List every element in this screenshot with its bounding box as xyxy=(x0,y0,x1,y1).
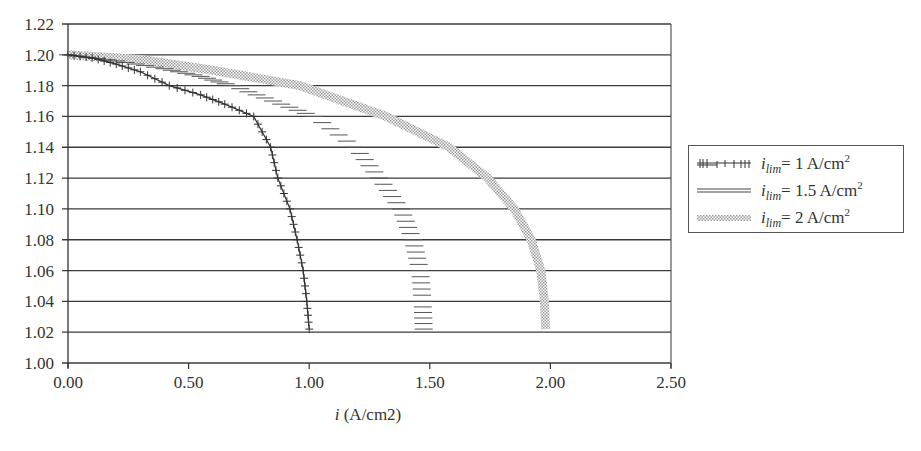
series-ilim-1-line xyxy=(64,51,313,333)
y-tick-label: 1.18 xyxy=(24,77,54,96)
legend-label: = 1.5 A/cm xyxy=(781,181,857,200)
y-tick-label: 1.20 xyxy=(24,46,54,65)
axes xyxy=(68,24,671,369)
legend-label-sub: lim xyxy=(766,216,781,230)
legend-label: = 2 A/cm xyxy=(781,208,844,227)
y-tick-label: 1.06 xyxy=(24,262,54,281)
legend-label: = 1 A/cm xyxy=(781,154,844,173)
data-series xyxy=(59,51,546,333)
legend-swatch-crosshatch-icon xyxy=(697,158,751,170)
series-ilim-1-5-line xyxy=(59,55,433,329)
y-tick-label: 1.00 xyxy=(24,354,54,373)
legend-label-sub: lim xyxy=(766,189,781,203)
y-tick-label: 1.08 xyxy=(24,231,54,250)
legend-label-sub: lim xyxy=(766,162,781,176)
x-tick-label: 2.00 xyxy=(536,373,566,392)
series-ilim-2-line xyxy=(68,55,546,329)
legend-item-ilim-1: ilim= 1 A/cm2 xyxy=(689,150,903,178)
legend-item-ilim-2: ilim= 2 A/cm2 xyxy=(689,204,903,232)
x-axis-title: i (A/cm2) xyxy=(335,405,402,424)
legend-swatch-dotted-band-icon xyxy=(697,212,751,224)
legend-label-sup: 2 xyxy=(845,152,851,164)
x-tick-label: 2.50 xyxy=(656,373,686,392)
y-tick-label: 1.14 xyxy=(24,138,54,157)
gridlines xyxy=(62,24,671,363)
x-tick-label: 1.50 xyxy=(415,373,445,392)
legend-item-ilim-1-5: ilim= 1.5 A/cm2 xyxy=(689,177,903,205)
legend: ilim= 1 A/cm2 ilim= 1.5 A/cm2 ilim= 2 A/… xyxy=(688,145,904,233)
y-tick-label: 1.04 xyxy=(24,292,54,311)
legend-label-sup: 2 xyxy=(857,179,863,191)
legend-label-sup: 2 xyxy=(845,206,851,218)
x-tick-label: 0.00 xyxy=(53,373,83,392)
y-tick-label: 1.12 xyxy=(24,169,54,188)
y-tick-label: 1.16 xyxy=(24,107,54,126)
x-tick-label: 0.50 xyxy=(174,373,204,392)
y-tick-label: 1.02 xyxy=(24,323,54,342)
x-tick-label: 1.00 xyxy=(294,373,324,392)
y-axis-tick-labels: 1.001.021.041.061.081.101.121.141.161.18… xyxy=(24,15,54,373)
y-tick-label: 1.10 xyxy=(24,200,54,219)
legend-swatch-double-line-icon xyxy=(697,185,751,197)
y-tick-label: 1.22 xyxy=(24,15,54,34)
x-axis-tick-labels: 0.000.501.001.502.002.50 xyxy=(53,373,686,392)
